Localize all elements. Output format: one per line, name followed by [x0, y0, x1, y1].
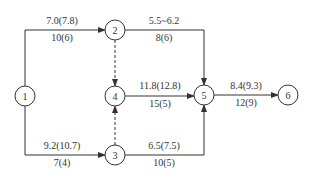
edge-4-5: 11.8(12.8) 15(5) — [125, 80, 194, 110]
edge-1-2-bottom-label: 10(6) — [51, 32, 73, 44]
network-diagram: 7.0(7.8) 10(6) 5.5~6.2 8(6) 9.2(10.7) 7(… — [0, 0, 311, 184]
node-2-label: 2 — [113, 25, 118, 36]
edge-2-5: 5.5~6.2 8(6) — [125, 15, 204, 85]
edge-2-5-bottom-label: 8(6) — [156, 32, 173, 44]
edge-4-5-top-label: 11.8(12.8) — [139, 80, 180, 92]
edge-5-6-bottom-label: 12(9) — [235, 97, 257, 109]
edge-3-5: 6.5(7.5) 10(5) — [125, 105, 204, 169]
edge-1-3-top-label: 9.2(10.7) — [44, 140, 81, 152]
edge-1-3: 9.2(10.7) 7(4) — [25, 106, 105, 169]
node-1: 1 — [15, 86, 35, 106]
edge-1-3-bottom-label: 7(4) — [54, 157, 71, 169]
node-1-label: 1 — [23, 91, 28, 102]
node-2: 2 — [105, 20, 125, 40]
edge-4-5-bottom-label: 15(5) — [149, 98, 171, 110]
edge-5-6-top-label: 8.4(9.3) — [230, 80, 262, 92]
node-5: 5 — [194, 85, 214, 105]
edge-1-2: 7.0(7.8) 10(6) — [25, 15, 105, 86]
edge-3-5-top-label: 6.5(7.5) — [148, 140, 180, 152]
node-3: 3 — [105, 145, 125, 165]
node-6-label: 6 — [286, 90, 291, 101]
node-4: 4 — [105, 86, 125, 106]
edge-2-5-top-label: 5.5~6.2 — [149, 15, 179, 26]
edge-3-5-bottom-label: 10(5) — [153, 157, 175, 169]
node-6: 6 — [278, 85, 298, 105]
node-4-label: 4 — [113, 91, 118, 102]
node-3-label: 3 — [113, 150, 118, 161]
node-5-label: 5 — [202, 90, 207, 101]
edge-1-2-top-label: 7.0(7.8) — [46, 15, 78, 27]
edge-5-6: 8.4(9.3) 12(9) — [214, 80, 278, 109]
